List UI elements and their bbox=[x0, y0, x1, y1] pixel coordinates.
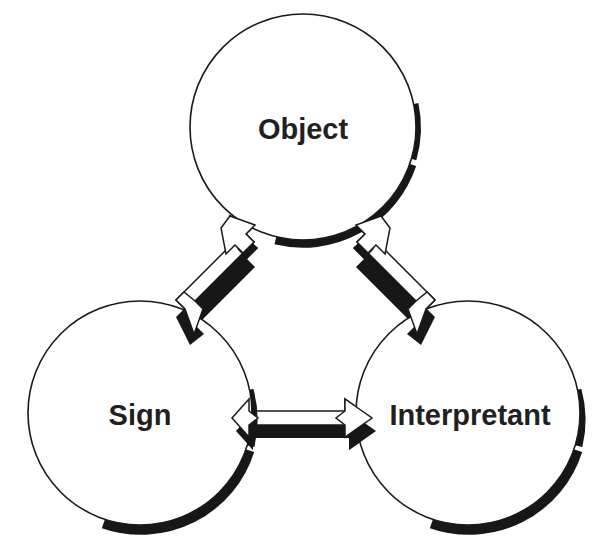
diagram-canvas: Object Sign Interpretant bbox=[0, 0, 611, 549]
semiotic-triangle-diagram: Object Sign Interpretant bbox=[0, 0, 611, 549]
node-interpretant-label: Interpretant bbox=[389, 399, 550, 431]
node-object-label: Object bbox=[258, 113, 349, 145]
node-sign[interactable]: Sign bbox=[28, 301, 253, 528]
node-interpretant[interactable]: Interpretant bbox=[356, 301, 581, 528]
node-object[interactable]: Object bbox=[190, 14, 416, 241]
node-sign-label: Sign bbox=[109, 399, 172, 431]
